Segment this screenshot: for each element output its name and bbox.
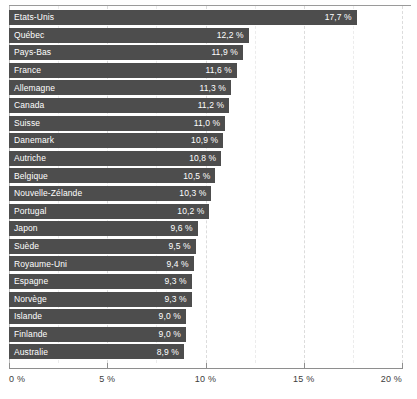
bar-category-label: Etats-Unis [9, 13, 54, 22]
bar-row: Finlande9,0 % [9, 327, 402, 342]
x-tick-label: 10 % [195, 374, 216, 384]
bar-value-label: 8,9 % [157, 348, 179, 357]
bar-value-label: 10,3 % [179, 189, 206, 198]
horizontal-bar-chart: Etats-Unis17,7 %Québec12,2 %Pays-Bas11,9… [0, 0, 417, 399]
bar-category-label: Nouvelle-Zélande [9, 189, 82, 198]
bar[interactable]: Suisse11,0 % [9, 116, 225, 131]
bar-category-label: Australie [9, 348, 48, 357]
bar-row: Espagne9,3 % [9, 274, 402, 289]
x-tick-label: 20 % [381, 374, 402, 384]
x-tick-mark [206, 363, 207, 369]
bar[interactable]: Nouvelle-Zélande10,3 % [9, 186, 211, 201]
bar-category-label: Suisse [9, 119, 40, 128]
bar-category-label: Japon [9, 224, 38, 233]
bar-value-label: 11,0 % [194, 119, 220, 128]
gridline-major [402, 6, 403, 363]
bar-category-label: Royaume-Uni [9, 260, 67, 269]
bar[interactable]: Belgique10,5 % [9, 168, 215, 183]
bar[interactable]: Japon9,6 % [9, 221, 198, 236]
bar-value-label: 9,3 % [164, 295, 186, 304]
bar-category-label: Islande [9, 312, 42, 321]
bar[interactable]: Suède9,5 % [9, 239, 196, 254]
bar-value-label: 9,0 % [159, 312, 181, 321]
x-tick-label: 5 % [99, 374, 115, 384]
bar-row: Royaume-Uni9,4 % [9, 256, 402, 271]
bar[interactable]: Islande9,0 % [9, 309, 186, 324]
x-tick-label: 0 % [9, 374, 25, 384]
bar-row: Islande9,0 % [9, 309, 402, 324]
bar[interactable]: Etats-Unis17,7 % [9, 10, 357, 25]
bar-value-label: 17,7 % [325, 13, 352, 22]
bar-category-label: France [9, 66, 41, 75]
bar-value-label: 10,5 % [183, 172, 210, 181]
bar-rows: Etats-Unis17,7 %Québec12,2 %Pays-Bas11,9… [9, 6, 402, 363]
bar[interactable]: Québec12,2 % [9, 28, 249, 43]
bar-category-label: Autriche [9, 154, 46, 163]
bar-value-label: 9,5 % [168, 242, 190, 251]
x-tick-mark [304, 363, 305, 369]
bar[interactable]: Portugal10,2 % [9, 204, 209, 219]
bar[interactable]: Norvège9,3 % [9, 292, 192, 307]
bar-value-label: 11,6 % [206, 66, 232, 75]
bar-row: Australie8,9 % [9, 344, 402, 359]
bar[interactable]: Royaume-Uni9,4 % [9, 256, 194, 271]
bar-row: Québec12,2 % [9, 28, 402, 43]
bar[interactable]: Autriche10,8 % [9, 151, 221, 166]
bar[interactable]: France11,6 % [9, 63, 237, 78]
bar-row: Canada11,2 % [9, 98, 402, 113]
bar-value-label: 11,3 % [200, 84, 226, 93]
bar-category-label: Finlande [9, 330, 47, 339]
bar-row: Portugal10,2 % [9, 204, 402, 219]
bar-value-label: 9,6 % [170, 224, 192, 233]
bar-category-label: Portugal [9, 207, 46, 216]
bar-row: Belgique10,5 % [9, 168, 402, 183]
bar-category-label: Pays-Bas [9, 48, 51, 57]
bar[interactable]: Espagne9,3 % [9, 274, 192, 289]
x-tick-mark [402, 363, 403, 369]
bar-value-label: 10,8 % [189, 154, 216, 163]
bar-row: Norvège9,3 % [9, 292, 402, 307]
bar-row: Autriche10,8 % [9, 151, 402, 166]
bar-category-label: Belgique [9, 172, 48, 181]
bar-category-label: Norvège [9, 295, 47, 304]
bar-category-label: Espagne [9, 277, 48, 286]
x-tick-mark [107, 363, 108, 369]
bar-row: Suisse11,0 % [9, 116, 402, 131]
bar-category-label: Danemark [9, 136, 54, 145]
x-tick-mark [9, 363, 10, 369]
bar-category-label: Suède [9, 242, 39, 251]
bar[interactable]: Canada11,2 % [9, 98, 229, 113]
bar-value-label: 11,9 % [211, 48, 237, 57]
bar-value-label: 10,2 % [177, 207, 204, 216]
bar[interactable]: Allemagne11,3 % [9, 80, 231, 95]
bar-row: France11,6 % [9, 63, 402, 78]
bar-category-label: Canada [9, 101, 44, 110]
bar-row: Allemagne11,3 % [9, 80, 402, 95]
bar-row: Pays-Bas11,9 % [9, 45, 402, 60]
bar-value-label: 10,9 % [191, 136, 218, 145]
bar-value-label: 11,2 % [198, 101, 224, 110]
bar-category-label: Québec [9, 31, 44, 40]
bar-row: Japon9,6 % [9, 221, 402, 236]
bar[interactable]: Pays-Bas11,9 % [9, 45, 243, 60]
bar[interactable]: Australie8,9 % [9, 344, 184, 359]
bar-row: Danemark10,9 % [9, 133, 402, 148]
bar-row: Suède9,5 % [9, 239, 402, 254]
bar-row: Nouvelle-Zélande10,3 % [9, 186, 402, 201]
x-tick-label: 15 % [293, 374, 314, 384]
bar-category-label: Allemagne [9, 84, 55, 93]
plot-area: Etats-Unis17,7 %Québec12,2 %Pays-Bas11,9… [9, 6, 402, 363]
bar-row: Etats-Unis17,7 % [9, 10, 402, 25]
bar-value-label: 9,3 % [164, 277, 186, 286]
bar-value-label: 9,4 % [166, 260, 188, 269]
bar-value-label: 9,0 % [159, 330, 181, 339]
bar[interactable]: Danemark10,9 % [9, 133, 223, 148]
bar[interactable]: Finlande9,0 % [9, 327, 186, 342]
bar-value-label: 12,2 % [217, 31, 244, 40]
